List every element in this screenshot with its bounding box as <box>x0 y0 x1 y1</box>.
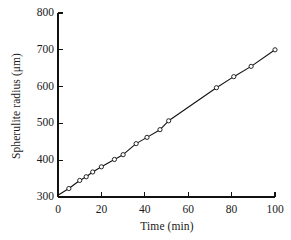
x-tick-label: 60 <box>168 204 208 216</box>
x-tick-label: 0 <box>38 204 78 216</box>
x-axis-tick-labels: 020406080100 <box>0 204 291 220</box>
x-tick-label: 100 <box>255 204 291 216</box>
axis-spines <box>58 13 275 197</box>
x-axis-title: Time (min) <box>58 220 276 232</box>
x-tick-label: 20 <box>81 204 121 216</box>
data-line <box>58 50 275 195</box>
chart-figure: Spherulite radius (μm) 30040050060070080… <box>0 0 291 240</box>
axis-ticks <box>58 13 275 197</box>
x-tick-label: 80 <box>212 204 252 216</box>
x-tick-label: 40 <box>125 204 165 216</box>
